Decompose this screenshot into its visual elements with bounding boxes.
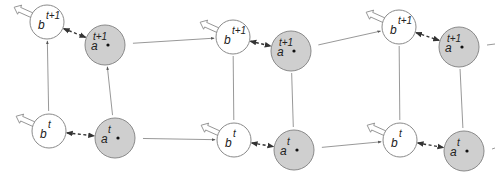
col-1-node-b-t: bt [32, 114, 66, 148]
node-center-dot [465, 149, 468, 152]
col-1-vertical-edge-a-now-to-a-next [107, 67, 112, 115]
col-3-b-now-output-arrow-icon [367, 123, 386, 136]
col-1-dashed-link-b-now-a-now [67, 133, 94, 136]
node-superscript-label: t+1 [447, 33, 461, 44]
col-2-node-a-t: at [274, 130, 314, 170]
col-2-b-next-output-arrow-icon [200, 20, 219, 33]
col-3-dashed-link-b-next-a-next [416, 33, 439, 41]
diagram-canvas: bt+1at+1btatbt+1at+1btatbt+1at+1btat [0, 0, 495, 172]
col-2-b-now-output-arrow-icon [201, 123, 220, 136]
horizontal-edge-col-1-a-next-to-col-2-b-next [133, 38, 214, 43]
horizontal-edge-col-2-a-next-to-col-3-b-next [318, 31, 380, 45]
col-2-vertical-edge-a-now-to-a-next [292, 73, 294, 127]
col-1-dashed-link-b-next-a-next [64, 29, 86, 38]
node-symbol-label: b [390, 23, 397, 37]
horizontal-edge-col-2-a-now-to-col-3-b-now [322, 142, 381, 148]
col-3-b-next-output-arrow-icon [366, 10, 385, 23]
node-symbol-label: b [224, 33, 231, 47]
node-center-dot [460, 45, 463, 48]
node-symbol-label: b [38, 18, 45, 32]
nodes-layer: bt+1at+1btatbt+1at+1btatbt+1at+1btat [30, 5, 484, 171]
node-superscript-label: t+1 [46, 10, 60, 21]
node-center-dot [106, 43, 109, 46]
col-3-trailing-edge-a-next [487, 44, 495, 45]
node-symbol-label: a [280, 144, 287, 158]
col-2-dashed-link-b-next-a-next [250, 41, 270, 46]
col-1-b-next-output-arrow-icon [14, 5, 33, 18]
node-superscript-label: t+1 [279, 37, 293, 48]
horizontal-edge-col-1-a-now-to-col-2-b-now [143, 138, 215, 139]
col-2-node-b-t: bt [217, 123, 251, 157]
col-2-vertical-edge-b-now-to-b-next [233, 56, 234, 120]
node-symbol-label: b [225, 136, 232, 150]
edges-layer [14, 5, 495, 149]
col-3-node-b-tplus1: bt+1 [382, 10, 416, 44]
col-2-node-b-tplus1: bt+1 [216, 20, 250, 54]
col-3-dashed-link-b-now-a-now [418, 143, 444, 147]
node-superscript-label: t+1 [232, 25, 246, 36]
node-symbol-label: a [450, 145, 457, 159]
node-center-dot [116, 136, 119, 139]
node-symbol-label: b [40, 127, 47, 141]
node-symbol-label: a [101, 132, 108, 146]
node-symbol-label: b [391, 136, 398, 150]
col-1-node-a-t: at [95, 118, 135, 158]
col-2-node-a-tplus1: at+1 [271, 31, 311, 71]
col-2-dashed-link-b-now-a-now [252, 143, 274, 147]
node-center-dot [295, 148, 298, 151]
node-superscript-label: t+1 [93, 31, 107, 42]
col-1-b-now-output-arrow-icon [16, 114, 35, 127]
col-1-vertical-edge-b-now-to-b-next [47, 41, 48, 111]
col-1-node-b-tplus1: bt+1 [30, 5, 64, 39]
col-1-node-a-tplus1: at+1 [85, 25, 125, 65]
col-3-node-b-t: bt [383, 123, 417, 157]
node-center-dot [292, 49, 295, 52]
node-superscript-label: t+1 [398, 15, 412, 26]
col-3-vertical-edge-a-now-to-a-next [460, 69, 463, 128]
col-3-node-a-t: at [444, 131, 484, 171]
col-3-node-a-tplus1: at+1 [439, 27, 479, 67]
col-3-vertical-edge-b-now-to-b-next [399, 46, 400, 120]
